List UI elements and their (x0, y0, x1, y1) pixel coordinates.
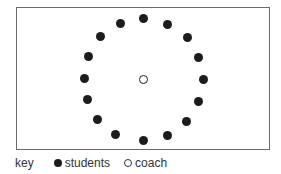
student-dot (111, 130, 120, 139)
legend-label-students: students (65, 156, 110, 170)
student-dot (183, 33, 192, 42)
student-dot (182, 117, 191, 126)
legend-title: key (15, 156, 34, 170)
filled-circle-icon (54, 159, 62, 167)
legend-item-students: students (54, 156, 110, 170)
student-dot (199, 75, 208, 84)
student-dot (83, 95, 92, 104)
student-dot (116, 19, 125, 28)
open-circle-icon (124, 159, 132, 167)
student-dot (194, 97, 203, 106)
legend-item-coach: coach (124, 156, 167, 170)
legend: key students coach (15, 156, 181, 170)
student-dot (93, 115, 102, 124)
student-dot (139, 136, 148, 145)
student-dot (96, 32, 105, 41)
student-dot (194, 53, 203, 62)
student-dot (163, 20, 172, 29)
legend-label-coach: coach (135, 156, 167, 170)
coach-dot (139, 75, 148, 84)
student-dot (84, 52, 93, 61)
student-dot (80, 74, 89, 83)
student-dot (139, 14, 148, 23)
student-dot (163, 131, 172, 140)
